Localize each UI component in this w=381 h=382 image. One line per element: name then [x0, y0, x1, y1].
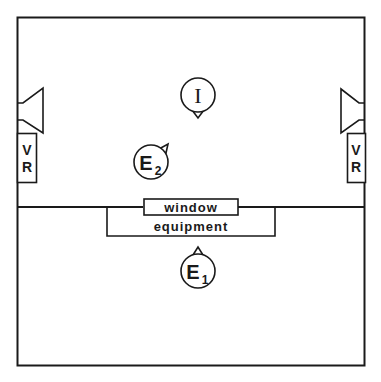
left-vr-line1: V [22, 142, 32, 158]
examiner-2-subscript: 2 [155, 164, 162, 178]
window: window [144, 199, 238, 215]
examiner-1-subscript: 1 [202, 273, 209, 287]
examiner-2-marker: E 2 [134, 144, 168, 179]
room-diagram: equipment window V R V R I E 2 [0, 0, 381, 382]
left-vr-unit: V R [18, 134, 37, 183]
examiner-2-letter: E [139, 152, 152, 174]
right-speaker-icon [341, 89, 365, 133]
room-frame [18, 18, 365, 366]
examiner-1-marker: E 1 [181, 247, 215, 288]
right-vr-line1: V [351, 142, 361, 158]
interviewer-marker: I [181, 78, 215, 118]
examiner-1-letter: E [186, 261, 199, 283]
left-speaker-icon [17, 88, 43, 133]
right-vr-unit: V R [348, 134, 366, 183]
interviewer-label: I [194, 83, 201, 108]
right-vr-line2: R [351, 159, 361, 175]
equipment-label: equipment [154, 219, 229, 234]
left-vr-line2: R [22, 159, 32, 175]
window-label: window [163, 200, 218, 215]
